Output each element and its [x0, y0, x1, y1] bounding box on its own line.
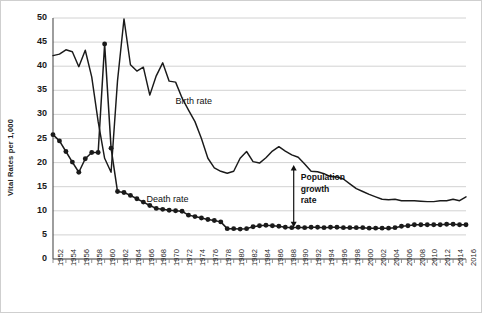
x-tick-label: 1980: [237, 249, 246, 266]
data-point-death-rate: [367, 226, 372, 231]
x-tick-label: 1958: [95, 249, 104, 266]
data-point-death-rate: [341, 225, 346, 230]
data-point-death-rate: [134, 196, 139, 201]
data-point-death-rate: [173, 208, 178, 213]
data-point-death-rate: [115, 189, 120, 194]
data-point-death-rate: [244, 226, 249, 231]
x-tick-label: 1970: [172, 249, 181, 266]
data-point-death-rate: [57, 138, 62, 143]
x-tick-label: 2000: [366, 249, 375, 266]
x-tick-label: 1976: [211, 249, 220, 266]
data-point-death-rate: [360, 225, 365, 230]
x-tick-label: 1962: [121, 249, 130, 266]
data-point-death-rate: [399, 224, 404, 229]
x-tick-label: 1998: [353, 249, 362, 266]
data-point-death-rate: [102, 42, 107, 47]
data-point-death-rate: [154, 206, 159, 211]
plot-area: [1, 1, 482, 313]
annotation-line: rate: [301, 195, 345, 207]
data-point-death-rate: [89, 150, 94, 155]
data-point-death-rate: [96, 150, 101, 155]
data-point-death-rate: [180, 209, 185, 214]
data-point-death-rate: [412, 222, 417, 227]
data-point-death-rate: [283, 225, 288, 230]
y-tick-label: 40: [21, 60, 47, 70]
y-tick-label: 20: [21, 157, 47, 167]
data-point-death-rate: [373, 226, 378, 231]
data-point-death-rate: [160, 207, 165, 212]
x-tick-label: 1968: [159, 249, 168, 266]
y-tick-label: 50: [21, 12, 47, 22]
y-tick-label: 35: [21, 84, 47, 94]
data-point-death-rate: [186, 213, 191, 218]
x-tick-label: 1960: [108, 249, 117, 266]
data-point-death-rate: [296, 225, 301, 230]
data-point-death-rate: [451, 222, 456, 227]
data-point-death-rate: [225, 226, 230, 231]
data-point-death-rate: [218, 219, 223, 224]
x-tick-label: 1992: [314, 249, 323, 266]
annotation-line: Population: [301, 172, 345, 184]
x-tick-label: 1996: [340, 249, 349, 266]
x-tick-label: 2014: [456, 249, 465, 266]
x-tick-label: 1974: [198, 249, 207, 266]
data-point-death-rate: [276, 224, 281, 229]
data-point-death-rate: [444, 222, 449, 227]
data-point-death-rate: [109, 146, 114, 151]
data-point-death-rate: [431, 222, 436, 227]
data-point-death-rate: [193, 214, 198, 219]
data-point-death-rate: [270, 223, 275, 228]
data-point-death-rate: [315, 225, 320, 230]
data-point-death-rate: [212, 218, 217, 223]
x-tick-label: 1964: [134, 249, 143, 266]
x-tick-label: 2004: [392, 249, 401, 266]
data-point-death-rate: [438, 222, 443, 227]
data-point-death-rate: [76, 170, 81, 175]
data-point-death-rate: [141, 200, 146, 205]
data-point-death-rate: [354, 225, 359, 230]
x-tick-label: 1966: [147, 249, 156, 266]
x-tick-label: 2016: [469, 249, 478, 266]
x-tick-label: 2012: [443, 249, 452, 266]
data-point-death-rate: [328, 225, 333, 230]
data-point-death-rate: [302, 225, 307, 230]
data-point-death-rate: [205, 217, 210, 222]
data-point-death-rate: [425, 222, 430, 227]
x-tick-label: 1990: [301, 249, 310, 266]
y-tick-label: 0: [21, 253, 47, 263]
vital-rates-chart: Vital Rates per 1,000 051015202530354045…: [0, 0, 482, 313]
y-tick-label: 30: [21, 108, 47, 118]
x-tick-label: 2010: [430, 249, 439, 266]
data-point-death-rate: [464, 222, 469, 227]
data-point-death-rate: [63, 149, 68, 154]
data-point-death-rate: [309, 225, 314, 230]
data-point-death-rate: [238, 227, 243, 232]
annotation-line: growth: [301, 184, 345, 196]
data-point-death-rate: [83, 156, 88, 161]
data-point-death-rate: [457, 222, 462, 227]
data-point-death-rate: [264, 223, 269, 228]
y-tick-label: 10: [21, 205, 47, 215]
data-point-death-rate: [418, 222, 423, 227]
data-point-death-rate: [347, 225, 352, 230]
data-point-death-rate: [393, 225, 398, 230]
data-point-death-rate: [380, 226, 385, 231]
data-point-death-rate: [167, 208, 172, 213]
x-tick-label: 1986: [276, 249, 285, 266]
data-point-death-rate: [322, 225, 327, 230]
data-point-death-rate: [199, 216, 204, 221]
data-point-death-rate: [334, 225, 339, 230]
x-tick-label: 1988: [289, 249, 298, 266]
x-tick-label: 1954: [69, 249, 78, 266]
x-tick-label: 2008: [418, 249, 427, 266]
data-point-death-rate: [231, 226, 236, 231]
data-point-death-rate: [70, 160, 75, 165]
x-tick-label: 2002: [379, 249, 388, 266]
data-point-death-rate: [251, 224, 256, 229]
data-point-death-rate: [128, 193, 133, 198]
x-tick-label: 1994: [327, 249, 336, 266]
population-growth-arrow-head-top: [291, 165, 297, 171]
birth-rate-label: Birth rate: [176, 96, 213, 106]
x-tick-label: 1956: [82, 249, 91, 266]
data-point-death-rate: [386, 226, 391, 231]
